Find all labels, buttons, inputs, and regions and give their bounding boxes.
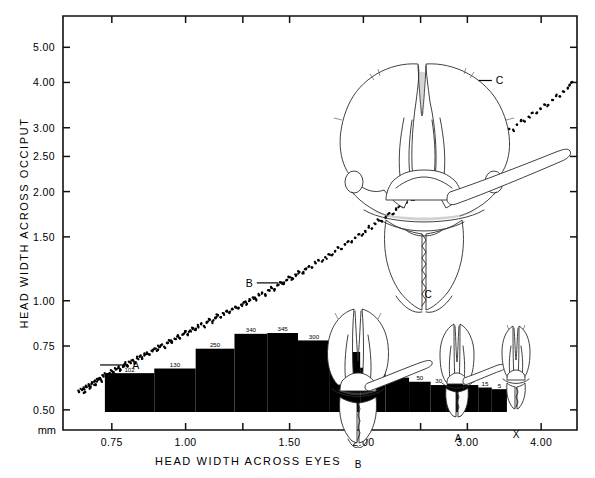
scatter-point <box>285 279 287 281</box>
scatter-point <box>208 318 210 320</box>
histogram-bar <box>478 388 492 412</box>
scatter-point <box>96 381 98 383</box>
scatter-point <box>83 392 85 394</box>
scatter-point <box>160 344 162 346</box>
histogram-bar <box>431 385 447 412</box>
scatter-point <box>231 308 233 310</box>
scatter-point <box>166 342 168 344</box>
scatter-point <box>326 258 328 260</box>
scatter-point <box>261 292 263 294</box>
scatter-point <box>373 222 375 224</box>
x-axis-title: HEAD WIDTH ACROSS EYES <box>155 455 341 467</box>
scatter-point <box>102 374 104 376</box>
y-tick-label-7: 0.75 <box>33 340 55 352</box>
scatter-point <box>242 301 244 303</box>
scatter-point <box>351 240 353 242</box>
scatter-point <box>371 227 373 229</box>
histogram-bar <box>267 333 298 412</box>
scatter-point <box>273 290 275 292</box>
scatter-point <box>141 358 143 360</box>
scatter-point <box>340 248 342 250</box>
scatter-point <box>397 206 399 208</box>
scatter-point <box>87 383 89 385</box>
y-tick-label-0: 5.00 <box>33 41 55 53</box>
scatter-point <box>358 233 360 235</box>
scatter-point <box>395 207 397 209</box>
scatter-point <box>264 295 266 297</box>
scatter-point <box>182 333 184 335</box>
histogram-bar <box>105 373 154 412</box>
scatter-point <box>287 276 289 278</box>
scatter-point <box>226 309 228 311</box>
scatter-point <box>90 385 92 387</box>
scatter-point <box>322 259 324 261</box>
scatter-point <box>124 361 126 363</box>
scatter-point <box>178 336 180 338</box>
scatter-point <box>248 300 250 302</box>
scatter-point <box>115 368 117 370</box>
head-x-label: X <box>513 429 520 440</box>
scatter-point <box>310 266 312 268</box>
scatter-point <box>122 366 124 368</box>
scatter-point <box>155 348 157 350</box>
scatter-point <box>197 326 199 328</box>
scatter-point <box>522 120 524 122</box>
y-tick-label-1: 4.00 <box>33 76 55 88</box>
head-c-cleft-stipple <box>419 72 425 114</box>
scatter-point <box>140 354 142 356</box>
scatter-point <box>170 341 172 343</box>
histogram-bar-label: 5 <box>498 382 502 389</box>
scatter-point <box>211 322 213 324</box>
scatter-point <box>187 334 189 336</box>
scatter-point <box>79 388 81 390</box>
scatter-point <box>101 381 103 383</box>
scatter-point <box>200 323 202 325</box>
scatter-point <box>364 231 366 233</box>
scatter-point <box>332 253 334 255</box>
scatter-point <box>567 88 569 90</box>
scatter-point <box>112 371 114 373</box>
scatter-point <box>568 85 570 87</box>
scatter-point <box>168 339 170 341</box>
scatter-point <box>100 378 102 380</box>
scatter-point <box>305 267 307 269</box>
x-tick-label-0: 0.75 <box>101 436 123 448</box>
scatter-point <box>217 314 219 316</box>
histogram-bar-label: 15 <box>482 380 489 387</box>
histogram-bar <box>234 334 267 412</box>
scatter-point <box>291 277 293 279</box>
scatter-point <box>254 297 256 299</box>
scatter-point <box>258 294 260 296</box>
scatter-point <box>149 353 151 355</box>
scatter-point <box>255 299 257 301</box>
scatter-point <box>177 334 179 336</box>
scatter-point <box>228 311 230 313</box>
scatter-point <box>128 361 130 363</box>
scatter-point <box>164 347 166 349</box>
scatter-point <box>106 377 108 379</box>
x-tick-label-1: 1.00 <box>175 436 197 448</box>
scatter-point <box>368 225 370 227</box>
scatter-point <box>302 271 304 273</box>
scatter-point <box>184 330 186 332</box>
scatter-point <box>197 324 199 326</box>
x-tick-label-5: 4.00 <box>530 436 552 448</box>
scatter-point <box>269 290 271 292</box>
scatter-point <box>317 259 319 261</box>
scatter-point <box>188 331 190 333</box>
scatter-point <box>143 354 145 356</box>
scatter-point <box>223 314 225 316</box>
scatter-point <box>552 99 554 101</box>
scatter-point <box>237 307 239 309</box>
scatter-point <box>270 286 272 288</box>
scatter-point <box>103 372 105 374</box>
scatter-point <box>245 304 247 306</box>
scatter-point <box>85 384 87 386</box>
scatter-point <box>119 368 121 370</box>
scatter-point <box>281 283 283 285</box>
scatter-point <box>241 305 243 307</box>
scatter-point <box>126 365 128 367</box>
histogram-bar <box>196 349 235 412</box>
scatter-point <box>558 95 560 97</box>
allometry-figure: 5.004.003.002.502.001.501.000.750.50 0.7… <box>0 0 595 478</box>
